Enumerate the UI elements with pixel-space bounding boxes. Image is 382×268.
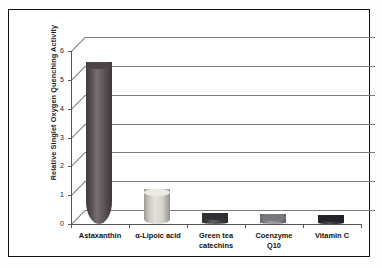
y-axis-tick-label: 4 [50, 105, 64, 112]
y-axis-line [71, 51, 72, 224]
gridline-depth-connector [71, 210, 86, 225]
x-axis-category-label-line: Vitamin C [303, 231, 361, 241]
x-axis-category-label-line: Astaxanthin [71, 231, 129, 241]
x-axis-tick [361, 224, 362, 228]
bar-0 [86, 62, 112, 224]
y-axis-tick-label: 5 [50, 76, 64, 83]
gridline [85, 37, 375, 38]
figure-canvas: Relative Singlet Oxygen Quenching Activi… [0, 0, 382, 268]
gridline [85, 210, 375, 211]
x-axis-category-label-line: Green tea [187, 231, 245, 241]
bar-3 [260, 214, 286, 224]
x-axis-line [71, 224, 361, 225]
bar-top-ellipse [202, 213, 228, 220]
x-axis-category-label-line: Q10 [245, 241, 303, 251]
x-axis-tick [71, 224, 72, 228]
y-axis-tick [68, 166, 71, 167]
gridline [85, 66, 375, 67]
y-axis-tick-label: 6 [50, 47, 64, 54]
x-axis-tick [187, 224, 188, 228]
y-axis-tick-label: 3 [50, 134, 64, 141]
x-axis-category-label: Astaxanthin [71, 231, 129, 241]
y-axis-tick [68, 80, 71, 81]
bar-top-ellipse [86, 62, 112, 69]
x-axis-category-label: Green teacatechins [187, 231, 245, 250]
y-axis-tick-label: 0 [50, 220, 64, 227]
y-axis-tick [68, 109, 71, 110]
y-axis-tick [68, 138, 71, 139]
bar-2 [202, 213, 228, 224]
x-axis-category-label: CoenzymeQ10 [245, 231, 303, 250]
gridline [85, 124, 375, 125]
y-axis-tick [68, 51, 71, 52]
y-axis-tick-label: 1 [50, 191, 64, 198]
bar-1 [144, 189, 170, 224]
gridline [85, 181, 375, 182]
gridline-depth-connector [71, 152, 86, 167]
chart-frame: Relative Singlet Oxygen Quenching Activi… [8, 9, 370, 257]
gridline-depth-connector [71, 95, 86, 110]
bar-4 [318, 215, 344, 224]
gridline-depth-connector [71, 66, 86, 81]
x-axis-tick [303, 224, 304, 228]
x-axis-tick [129, 224, 130, 228]
gridline [85, 95, 375, 96]
gridline-depth-connector [71, 181, 86, 196]
bar-top-ellipse [144, 189, 170, 196]
gridline-depth-connector [71, 37, 86, 52]
x-axis-category-label-line: α-Lipoic acid [129, 231, 187, 241]
y-axis-tick-label: 2 [50, 162, 64, 169]
x-axis-category-label-line: Coenzyme [245, 231, 303, 241]
bar-body [86, 62, 112, 224]
x-axis-category-label-line: catechins [187, 241, 245, 251]
x-axis-category-label: Vitamin C [303, 231, 361, 241]
x-axis-category-label: α-Lipoic acid [129, 231, 187, 241]
y-axis-tick [68, 195, 71, 196]
x-axis-tick [245, 224, 246, 228]
gridline [85, 152, 375, 153]
gridline-depth-connector [71, 124, 86, 139]
plot-area: 0123456Astaxanthinα-Lipoic acidGreen tea… [9, 10, 371, 258]
